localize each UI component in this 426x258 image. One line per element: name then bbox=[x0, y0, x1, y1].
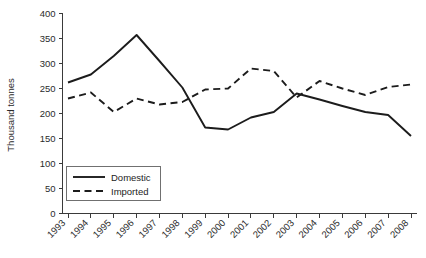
x-tick-label: 2005 bbox=[319, 217, 342, 240]
x-tick-label: 2001 bbox=[228, 217, 251, 240]
x-tick-label: 2004 bbox=[296, 217, 319, 240]
series-line-imported bbox=[68, 69, 411, 113]
chart-legend: Domestic Imported bbox=[67, 167, 161, 201]
y-tick-label: 250 bbox=[40, 83, 56, 94]
y-tick-label: 50 bbox=[45, 183, 56, 194]
line-chart: Thousand tonnes 050100150200250300350400… bbox=[0, 0, 426, 258]
x-tick-label: 1997 bbox=[136, 217, 159, 240]
y-tick-label: 200 bbox=[40, 108, 56, 119]
series-line-domestic bbox=[68, 35, 411, 136]
x-tick-label: 2006 bbox=[342, 217, 365, 240]
x-tick-label: 1994 bbox=[68, 217, 91, 240]
x-tick-label: 1998 bbox=[159, 217, 182, 240]
y-tick-label: 400 bbox=[40, 8, 56, 19]
legend-label-domestic: Domestic bbox=[111, 172, 151, 183]
x-tick-label: 2008 bbox=[388, 217, 411, 240]
x-tick-label: 2002 bbox=[250, 217, 273, 240]
y-axis-title: Thousand tonnes bbox=[5, 78, 16, 152]
legend-label-imported: Imported bbox=[111, 186, 149, 197]
x-tick-label: 1995 bbox=[90, 217, 113, 240]
x-tick-label: 1993 bbox=[45, 217, 68, 240]
y-tick-label: 300 bbox=[40, 58, 56, 69]
x-tick-label: 2003 bbox=[273, 217, 296, 240]
y-axis-title-text: Thousand tonnes bbox=[5, 78, 16, 152]
y-tick-label: 0 bbox=[50, 208, 55, 219]
chart-canvas: Thousand tonnes 050100150200250300350400… bbox=[0, 0, 426, 258]
y-axis-ticks: 050100150200250300350400 bbox=[40, 8, 63, 219]
x-axis-ticks: 1993199419951996199719981999200020012002… bbox=[45, 214, 411, 240]
x-tick-label: 1996 bbox=[113, 217, 136, 240]
x-tick-label: 2000 bbox=[205, 217, 228, 240]
x-tick-label: 1999 bbox=[182, 217, 205, 240]
y-tick-label: 350 bbox=[40, 33, 56, 44]
data-series-group bbox=[68, 35, 411, 136]
y-tick-label: 150 bbox=[40, 133, 56, 144]
x-tick-label: 2007 bbox=[365, 217, 388, 240]
y-tick-label: 100 bbox=[40, 158, 56, 169]
